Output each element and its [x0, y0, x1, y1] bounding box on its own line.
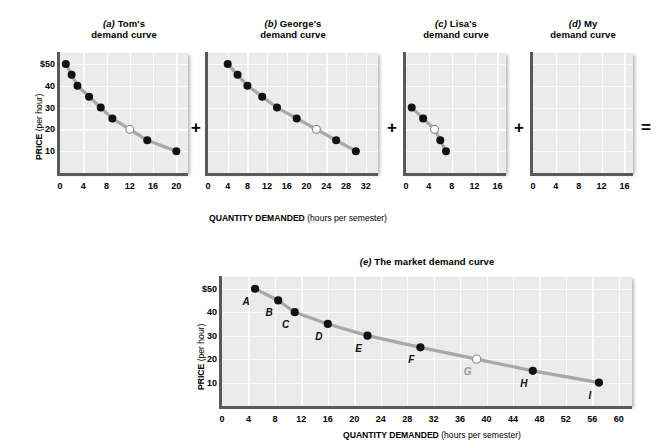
point-label-i: I	[589, 389, 592, 400]
demand-curve-a	[60, 53, 188, 173]
data-point	[419, 114, 427, 122]
panel-title-line1-d: My	[584, 18, 597, 29]
x-axis-label-top: QUANTITY DEMANDED (hours per semester)	[168, 213, 428, 223]
x-tick-e-8: 8	[272, 414, 277, 424]
x-tick-a-8: 8	[104, 181, 109, 191]
panel-letter-d: (d)	[569, 18, 581, 29]
gridline-horizontal	[533, 108, 633, 109]
x-tick-e-4: 4	[246, 414, 251, 424]
x-tick-e-44: 44	[508, 414, 518, 424]
y-tick-e-10: 10	[207, 378, 217, 388]
data-point	[73, 82, 81, 90]
plus-operator-2: +	[514, 119, 524, 136]
x-tick-a-16: 16	[148, 181, 158, 191]
data-point	[291, 308, 299, 316]
data-point-open	[473, 355, 481, 363]
x-tick-a-4: 4	[81, 181, 86, 191]
panel-letter-e: (e)	[360, 256, 372, 267]
panel-title-b: (b) George'sdemand curve	[208, 18, 378, 40]
panel-title-line1-b: George's	[280, 18, 322, 29]
data-point	[442, 147, 450, 155]
point-label-c: C	[282, 319, 289, 330]
data-point	[143, 136, 151, 144]
plot-area-e: ABCDEFGHI	[222, 277, 632, 406]
data-point	[274, 296, 282, 304]
x-axis-line-a	[57, 173, 188, 176]
plot-area-b	[208, 53, 378, 173]
panel-title-line2-d: demand curve	[550, 29, 616, 40]
x-tick-b-16: 16	[282, 181, 292, 191]
x-tick-e-60: 60	[614, 414, 624, 424]
x-tick-e-40: 40	[482, 414, 492, 424]
y-axis-label-bottom-unit: (per hour)	[196, 324, 206, 362]
plot-area-a	[60, 53, 188, 173]
data-point	[293, 114, 301, 122]
point-label-g: G	[464, 366, 472, 377]
x-tick-e-32: 32	[429, 414, 439, 424]
y-axis-label-top-title: PRICE	[34, 134, 44, 160]
point-label-h: H	[520, 377, 527, 388]
x-tick-c-16: 16	[492, 181, 502, 191]
x-axis-label-bottom-unit: (hours per semester)	[441, 430, 521, 440]
panel-title-a: (a) Tom'sdemand curve	[60, 18, 188, 40]
x-axis-label-top-title: QUANTITY DEMANDED	[209, 213, 305, 223]
data-point	[408, 104, 416, 112]
market-demand-figure: (a) Tom'sdemand curve$504030201004812162…	[0, 0, 662, 446]
equals-operator-3: =	[641, 119, 651, 136]
y-tick-a-40: 40	[45, 81, 55, 91]
y-axis-label-bottom-title: PRICE	[196, 364, 206, 390]
data-point	[85, 93, 93, 101]
point-label-b: B	[266, 307, 273, 318]
x-tick-d-16: 16	[619, 181, 629, 191]
plot-area-d	[533, 53, 633, 173]
x-tick-d-12: 12	[597, 181, 607, 191]
x-axis-line-e	[219, 406, 632, 409]
data-point	[363, 332, 371, 340]
x-axis-label-bottom-title: QUANTITY DEMANDED	[343, 430, 439, 440]
data-point	[224, 60, 232, 68]
x-tick-c-4: 4	[426, 181, 431, 191]
plot-background-d	[533, 53, 633, 173]
panel-title-line2-a: demand curve	[91, 29, 157, 40]
data-point	[352, 147, 360, 155]
x-tick-b-24: 24	[321, 181, 331, 191]
x-tick-c-8: 8	[449, 181, 454, 191]
x-tick-e-28: 28	[402, 414, 412, 424]
data-point	[97, 104, 105, 112]
data-point	[108, 114, 116, 122]
y-tick-e-30: 30	[207, 331, 217, 341]
data-point	[172, 147, 180, 155]
x-tick-a-0: 0	[57, 181, 62, 191]
y-tick-e-50: $50	[202, 284, 217, 294]
x-tick-e-36: 36	[455, 414, 465, 424]
y-tick-e-20: 20	[207, 354, 217, 364]
x-tick-b-28: 28	[341, 181, 351, 191]
data-point	[62, 60, 70, 68]
y-axis-label-top: PRICE (per hour)	[34, 94, 44, 160]
point-label-e: E	[355, 342, 362, 353]
gridline-vertical	[579, 53, 580, 173]
gridline-horizontal	[533, 129, 633, 130]
x-tick-b-12: 12	[262, 181, 272, 191]
data-point	[324, 320, 332, 328]
demand-curve-c	[406, 53, 506, 173]
gridline-vertical	[602, 53, 603, 173]
panel-letter-b: (b)	[265, 18, 277, 29]
data-point	[332, 136, 340, 144]
data-point	[529, 367, 537, 375]
y-tick-a-10: 10	[45, 146, 55, 156]
demand-curve-b	[208, 53, 378, 173]
data-point-open	[431, 125, 439, 133]
x-tick-e-48: 48	[534, 414, 544, 424]
x-tick-d-4: 4	[553, 181, 558, 191]
y-tick-a-20: 20	[45, 124, 55, 134]
panel-title-line1-c: Lisa's	[450, 18, 477, 29]
x-tick-c-12: 12	[470, 181, 480, 191]
data-point	[234, 71, 242, 79]
gridline-vertical	[624, 53, 625, 173]
x-axis-line-d	[530, 173, 633, 176]
panel-title-line1-a: Tom's	[118, 18, 145, 29]
x-axis-label-top-unit: (hours per semester)	[307, 213, 387, 223]
data-point-open	[126, 125, 134, 133]
x-tick-e-12: 12	[296, 414, 306, 424]
